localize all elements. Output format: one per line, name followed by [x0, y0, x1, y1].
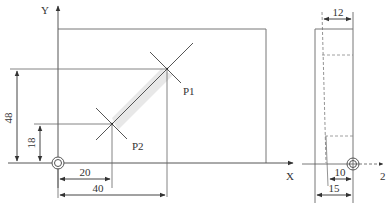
dim-18-text: 18 [25, 137, 37, 149]
dim-48-text: 48 [2, 112, 14, 124]
z-axis-label: 2 [380, 170, 386, 182]
x-axis-label: X [286, 170, 294, 182]
p1-label: P1 [183, 85, 195, 97]
origin-symbol-icon [52, 157, 64, 169]
hidden-taper-line [322, 12, 326, 163]
dim-20-text: 20 [80, 166, 92, 178]
dim-15-text: 15 [329, 182, 341, 194]
technical-drawing: Y X P1 P2 48 18 [0, 0, 390, 211]
front-view: Y X P1 P2 48 18 [2, 4, 294, 198]
workpiece-outline [58, 29, 266, 163]
side-view: 2 12 10 15 [302, 6, 386, 203]
toolpath-highlight [112, 69, 173, 130]
dim-10-text: 10 [335, 166, 347, 178]
side-origin-symbol-icon [347, 158, 359, 170]
y-axis-label: Y [41, 4, 49, 16]
side-inner-extension [326, 136, 328, 186]
dim-12-text: 12 [333, 6, 344, 18]
dim-40-text: 40 [93, 182, 105, 194]
p2-p1-line [96, 43, 193, 140]
p2-label: P2 [132, 140, 144, 152]
